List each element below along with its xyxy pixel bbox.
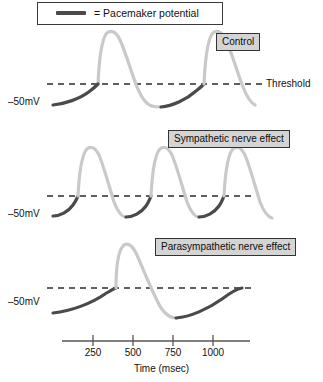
pacemaker-potential-curve-sympathetic-1 — [53, 196, 78, 216]
pacemaker-potential-curve-parasympathetic-2 — [176, 288, 242, 318]
pacemaker-potential-curve-parasympathetic-1 — [53, 288, 116, 313]
baseline-label-sympathetic: –50mV — [8, 209, 40, 219]
pacemaker-potential-curve-sympathetic-2 — [126, 196, 151, 217]
time-axis-title: Time (msec) — [0, 364, 323, 374]
action-potential-curve-control-1 — [98, 31, 152, 106]
pacemaker-potential-figure: = Pacemaker potential Control Sympatheti… — [0, 0, 323, 382]
figure-canvas — [0, 0, 323, 382]
threshold-label: Threshold — [266, 79, 310, 89]
pacemaker-potential-curve-sympathetic-3 — [199, 196, 224, 217]
pacemaker-potential-curve-control-2 — [161, 84, 204, 107]
baseline-label-parasympathetic: –50mV — [8, 297, 40, 307]
legend-label: = Pacemaker potential — [94, 8, 199, 19]
baseline-label-control: –50mV — [8, 97, 40, 107]
pacemaker-potential-curve-control-1 — [53, 84, 98, 105]
action-potential-curve-sympathetic-1 — [78, 147, 126, 217]
time-tick-label-750: 750 — [159, 348, 187, 358]
time-tick-label-1000: 1000 — [197, 348, 229, 358]
panel-title-sympathetic: Sympathetic nerve effect — [168, 130, 290, 148]
panel-sympathetic — [47, 147, 272, 218]
action-potential-curve-sympathetic-3 — [224, 147, 272, 218]
time-tick-label-250: 250 — [79, 348, 107, 358]
pacemaker-potential-swatch — [56, 11, 86, 15]
panel-title-parasympathetic: Parasympathetic nerve effect — [155, 238, 296, 256]
panel-title-control: Control — [216, 33, 260, 51]
time-tick-label-500: 500 — [119, 348, 147, 358]
time-axis — [62, 335, 250, 346]
action-potential-curve-sympathetic-2 — [151, 147, 199, 217]
